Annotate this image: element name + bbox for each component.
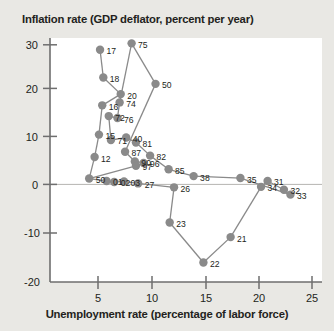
- data-point-marker[interactable]: [105, 112, 113, 120]
- data-point-label: 15: [105, 131, 115, 141]
- data-point-marker[interactable]: [95, 130, 103, 138]
- y-tick-label-30: 30: [26, 39, 38, 51]
- data-point-label: 75: [138, 40, 148, 50]
- y-tick-label-minus10: -10: [24, 227, 40, 239]
- data-point-marker[interactable]: [257, 183, 265, 191]
- data-point-marker[interactable]: [189, 172, 197, 180]
- data-point-label: 02: [121, 178, 131, 188]
- data-point-label: 26: [181, 184, 191, 194]
- data-point-label: 38: [200, 173, 210, 183]
- data-point-marker[interactable]: [151, 80, 159, 88]
- data-point-label: 50: [162, 80, 172, 90]
- y-tick-label-20: 20: [26, 83, 38, 95]
- x-tick-label-10: 10: [146, 292, 158, 304]
- data-point-marker[interactable]: [132, 162, 140, 170]
- data-point-label: 97: [142, 162, 152, 172]
- data-point-label: 76: [124, 115, 134, 125]
- data-point-label: 17: [107, 46, 117, 56]
- data-point-label: 31: [274, 177, 284, 187]
- data-point-label: 85: [175, 166, 185, 176]
- data-point-label: 33: [297, 191, 307, 201]
- data-point-marker[interactable]: [99, 73, 107, 81]
- data-point-label: 87: [132, 148, 142, 158]
- plot-area-background: [50, 38, 322, 282]
- data-point-marker[interactable]: [226, 233, 234, 241]
- x-tick-label-25: 25: [306, 292, 318, 304]
- data-point-marker[interactable]: [164, 165, 172, 173]
- data-point-label: 16: [109, 102, 119, 112]
- scatter-chart: 30 20 10 0 -10 -20 5 10 15 20 25 1718201…: [0, 0, 334, 331]
- data-point-marker[interactable]: [98, 101, 106, 109]
- data-point-label: 50: [96, 175, 106, 185]
- data-point-label: 18: [110, 74, 120, 84]
- data-point-marker[interactable]: [117, 90, 125, 98]
- data-point-label: 12: [101, 154, 111, 164]
- data-point-marker[interactable]: [90, 153, 98, 161]
- data-point-marker[interactable]: [96, 46, 104, 54]
- data-point-marker[interactable]: [121, 148, 129, 156]
- y-tick-label-minus20: -20: [24, 276, 40, 288]
- data-point-label: 21: [237, 234, 247, 244]
- data-point-marker[interactable]: [165, 218, 173, 226]
- data-point-label: 74: [126, 99, 136, 109]
- data-point-label: 71: [117, 136, 127, 146]
- data-point-label: 40: [133, 134, 143, 144]
- data-point-label: 03: [130, 178, 140, 188]
- phillips-curve-figure: Inflation rate (GDP deflator, percent pe…: [0, 0, 334, 331]
- x-axis-title: Unemployment rate (percentage of labor f…: [0, 308, 334, 320]
- data-point-label: 81: [142, 139, 152, 149]
- data-point-marker[interactable]: [236, 174, 244, 182]
- data-point-label: 23: [176, 219, 186, 229]
- y-tick-label-10: 10: [26, 131, 38, 143]
- data-point-marker[interactable]: [127, 39, 135, 47]
- y-tick-label-0: 0: [32, 179, 38, 191]
- x-tick-label-15: 15: [200, 292, 212, 304]
- data-point-label: 27: [145, 180, 155, 190]
- data-point-label: 22: [210, 259, 220, 269]
- data-point-label: 35: [247, 175, 257, 185]
- data-point-marker[interactable]: [170, 183, 178, 191]
- data-point-marker[interactable]: [199, 258, 207, 266]
- x-tick-label-20: 20: [253, 292, 265, 304]
- x-tick-label-5: 5: [95, 292, 101, 304]
- data-point-marker[interactable]: [85, 174, 93, 182]
